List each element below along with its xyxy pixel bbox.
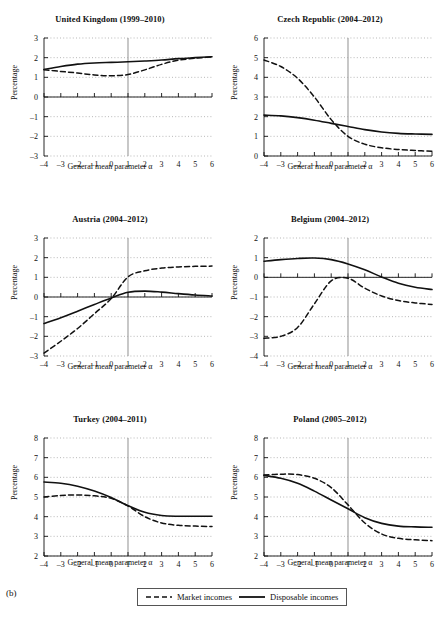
plot-svg: 2345678–4–3–2–10123456 [220,428,440,578]
legend-label-market-incomes: Market incomes [177,592,232,602]
y-tick-label: 5 [34,493,38,502]
plot-area: Percentage–3–2–10123–4–3–2–10123456 [0,228,220,378]
y-tick-label: 5 [254,54,258,63]
x-axis-label: General mean parameter α [0,362,220,371]
y-tick-label: 1 [34,73,38,82]
y-tick-label: –1 [29,113,38,122]
legend-item-market-incomes: Market incomes [146,592,232,602]
x-axis-label: General mean parameter α [0,162,220,171]
y-tick-label: 2 [34,54,38,63]
y-tick-label: 4 [34,513,38,522]
y-tick-label: 3 [254,532,258,541]
y-tick-label: 3 [254,93,258,102]
plot-svg: –4–3–2–1012–4–3–2–10123456 [220,228,440,378]
chart-panel: Poland (2005–2012)Percentage2345678–4–3–… [220,400,440,565]
panel-title: Austria (2004–2012) [0,214,220,224]
y-tick-label: 1 [34,273,38,282]
y-tick-label: 6 [254,473,258,482]
y-tick-label: 5 [254,493,258,502]
x-axis-label: General mean parameter α [220,162,440,171]
legend-label-disposable-incomes: Disposable incomes [270,592,338,602]
y-tick-label: 7 [34,454,38,463]
y-tick-label: 6 [34,473,38,482]
y-tick-label: 3 [34,34,38,43]
y-tick-label: –2 [29,132,38,141]
y-tick-label: –2 [29,332,38,341]
y-tick-label: 1 [254,254,258,263]
legend-item-disposable-incomes: Disposable incomes [239,592,338,602]
chart-panel: Austria (2004–2012)Percentage–3–2–10123–… [0,200,220,400]
figure-label: (b) [6,588,17,598]
plot-svg: 2345678–4–3–2–10123456 [0,428,220,578]
plot-svg: –3–2–10123–4–3–2–10123456 [0,228,220,378]
plot-area: Percentage2345678–4–3–2–10123456 [0,428,220,578]
panel-title: Czech Republic (2004–2012) [220,14,440,24]
panel-title: United Kingdom (1999–2010) [0,14,220,24]
plot-svg: –3–2–10123–4–3–2–10123456 [0,28,220,178]
plot-area: Percentage2345678–4–3–2–10123456 [220,428,440,578]
x-axis-label: General mean parameter α [220,362,440,371]
y-tick-label: 2 [254,113,258,122]
y-tick-label: 0 [254,152,258,161]
plot-area: Percentage–3–2–10123–4–3–2–10123456 [0,28,220,178]
y-tick-label: 0 [34,293,38,302]
panel-title: Turkey (2004–2011) [0,414,220,424]
y-axis-label: Percentage [10,443,19,523]
y-tick-label: 6 [254,34,258,43]
dashed-line-swatch [146,593,172,601]
chart-panel: Belgium (2004–2012)Percentage–4–3–2–1012… [220,200,440,400]
chart-legend: Market incomes Disposable incomes [137,588,347,606]
y-axis-label: Percentage [10,43,19,123]
y-tick-label: –4 [249,352,258,361]
y-tick-label: 3 [34,532,38,541]
y-axis-label: Percentage [10,243,19,323]
y-tick-label: –1 [29,313,38,322]
x-axis-label: General mean parameter α [0,558,220,567]
solid-line-swatch [239,593,265,601]
plot-area: Percentage0123456–4–3–2–10123456 [220,28,440,178]
panel-title: Belgium (2004–2012) [220,214,440,224]
y-tick-label: 0 [34,93,38,102]
y-tick-label: 7 [254,454,258,463]
y-tick-label: 2 [254,234,258,243]
chart-panel: United Kingdom (1999–2010)Percentage–3–2… [0,0,220,200]
y-tick-label: 0 [254,273,258,282]
y-tick-label: –3 [29,352,38,361]
plot-svg: 0123456–4–3–2–10123456 [220,28,440,178]
y-tick-label: –3 [249,332,258,341]
y-tick-label: –3 [29,152,38,161]
chart-panel: Turkey (2004–2011)Percentage2345678–4–3–… [0,400,220,565]
y-tick-label: 4 [254,73,258,82]
panel-title: Poland (2005–2012) [220,414,440,424]
y-tick-label: 2 [34,254,38,263]
plot-area: Percentage–4–3–2–1012–4–3–2–10123456 [220,228,440,378]
y-tick-label: 3 [34,234,38,243]
panel-grid: United Kingdom (1999–2010)Percentage–3–2… [0,0,440,560]
y-axis-label: Percentage [230,443,239,523]
y-tick-label: –1 [249,293,258,302]
y-axis-label: Percentage [230,243,239,323]
y-tick-label: –2 [249,313,258,322]
y-axis-label: Percentage [230,43,239,123]
x-axis-label: General mean parameter α [220,558,440,567]
chart-panel: Czech Republic (2004–2012)Percentage0123… [220,0,440,200]
y-tick-label: 8 [254,434,258,443]
y-tick-label: 1 [254,132,258,141]
y-tick-label: 4 [254,513,258,522]
y-tick-label: 8 [34,434,38,443]
